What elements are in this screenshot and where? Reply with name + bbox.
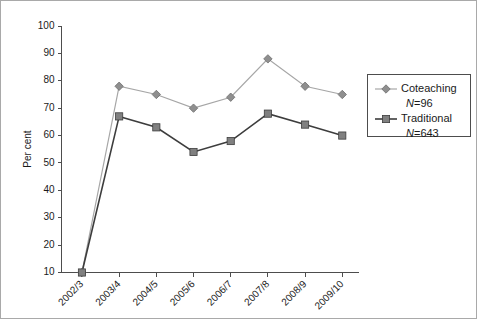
x-tick-group: 2002/32003/42004/52005/62006/72007/82008… xyxy=(56,273,346,312)
legend-swatch-marker xyxy=(382,115,389,122)
y-tick-label: 90 xyxy=(43,47,55,58)
y-tick-label: 100 xyxy=(38,20,55,31)
x-tick-label: 2005/6 xyxy=(168,278,198,308)
y-axis-title: Per cent xyxy=(22,130,33,167)
y-tick-label: 10 xyxy=(43,266,55,277)
y-tick-label: 80 xyxy=(43,74,55,85)
data-point-marker xyxy=(264,110,271,117)
x-tick-label: 2008/9 xyxy=(279,278,309,308)
series-group xyxy=(78,55,347,277)
data-point-marker xyxy=(338,90,346,98)
x-tick-label: 2007/8 xyxy=(242,278,272,308)
legend-sublabel: N=643 xyxy=(406,127,439,139)
data-point-marker xyxy=(189,104,197,112)
chart-legend: CoteachingN=96TraditionalN=643 xyxy=(368,75,471,139)
x-tick-label: 2006/7 xyxy=(205,278,235,308)
y-tick-label: 70 xyxy=(43,102,55,113)
data-point-marker xyxy=(339,132,346,139)
data-point-marker xyxy=(190,148,197,155)
data-point-marker xyxy=(115,82,123,90)
data-point-marker xyxy=(301,121,308,128)
data-point-marker xyxy=(153,124,160,131)
series-line-coteaching xyxy=(82,59,342,273)
y-tick-label: 30 xyxy=(43,211,55,222)
legend-label: Coteaching xyxy=(401,82,457,94)
x-tick-label: 2009/10 xyxy=(312,278,346,312)
x-tick-label: 2002/3 xyxy=(56,278,86,308)
series-line-traditional xyxy=(82,114,342,273)
y-tick-label: 60 xyxy=(43,129,55,140)
chart-figure: 102030405060708090100 2002/32003/42004/5… xyxy=(0,0,477,319)
x-tick-label: 2003/4 xyxy=(93,278,123,308)
y-tick-label: 50 xyxy=(43,157,55,168)
y-tick-label: 20 xyxy=(43,239,55,250)
y-tick-group: 102030405060708090100 xyxy=(38,20,62,278)
data-point-marker xyxy=(152,90,160,98)
y-tick-label: 40 xyxy=(43,184,55,195)
line-chart: 102030405060708090100 2002/32003/42004/5… xyxy=(1,1,477,319)
legend-label: Traditional xyxy=(401,112,452,124)
data-point-marker xyxy=(78,269,85,276)
data-point-marker xyxy=(116,113,123,120)
x-tick-label: 2004/5 xyxy=(130,278,160,308)
data-point-marker xyxy=(301,82,309,90)
legend-sublabel: N=96 xyxy=(406,97,433,109)
data-point-marker xyxy=(227,137,234,144)
